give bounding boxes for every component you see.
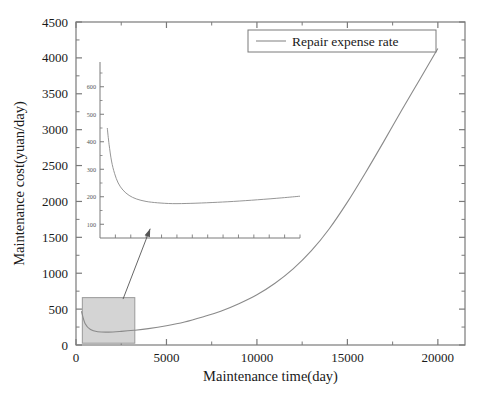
inset-y-tick-label: 100 (87, 221, 96, 228)
inset-y-tick-label: 400 (87, 138, 96, 145)
legend: Repair expense rate (248, 30, 436, 52)
plot-frame (76, 22, 465, 345)
y-tick-label: 1000 (42, 266, 68, 281)
x-tick-label: 10000 (241, 350, 274, 365)
y-tick-label: 1500 (42, 230, 68, 245)
inset-series-line (107, 128, 300, 204)
x-axis-title: Maintenance time(day) (203, 368, 338, 385)
arrow-head (145, 229, 150, 237)
inset-y-tick-label: 200 (87, 193, 96, 200)
x-tick-label: 5000 (153, 350, 179, 365)
y-tick-label: 0 (62, 338, 69, 353)
y-axis-title: Maintenance cost(yuan/day) (11, 101, 28, 266)
y-tick-label: 2500 (42, 158, 68, 173)
y-tick-label: 500 (49, 302, 69, 317)
y-tick-label: 2000 (42, 194, 68, 209)
zoom-region-rectangle (82, 298, 134, 344)
y-tick-label: 3000 (42, 122, 68, 137)
inset-y-tick-label: 600 (87, 83, 96, 90)
y-tick-label: 3500 (42, 86, 68, 101)
inset-y-tick-label: 500 (87, 111, 96, 118)
chart-canvas: 0500010000150002000005001000150020002500… (0, 0, 490, 401)
arrow-shaft (123, 229, 150, 299)
series-line-main (81, 49, 437, 333)
inset-y-tick-label: 300 (87, 166, 96, 173)
chart-figure: 0500010000150002000005001000150020002500… (0, 0, 490, 401)
y-tick-label: 4000 (42, 50, 68, 65)
x-tick-label: 20000 (422, 350, 455, 365)
x-tick-label: 15000 (331, 350, 364, 365)
y-tick-label: 4500 (42, 15, 68, 30)
x-tick-label: 0 (73, 350, 80, 365)
zoom-connector-arrow (123, 229, 150, 299)
legend-label-text: Repair expense rate (292, 34, 398, 49)
inset-detail-plot: 100200300400500600 (87, 62, 300, 238)
